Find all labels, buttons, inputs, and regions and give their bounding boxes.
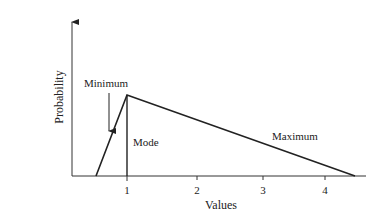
maximum-label: Maximum: [272, 131, 318, 142]
x-tick-label-2: 2: [194, 185, 200, 196]
x-ticks: [127, 176, 325, 181]
y-axis-label: Probability: [53, 65, 65, 129]
x-tick-label-3: 3: [260, 185, 266, 196]
minimum-label: Minimum: [84, 78, 128, 89]
x-tick-label-4: 4: [322, 185, 328, 196]
x-axis-label: Values: [205, 199, 237, 210]
x-tick-label-1: 1: [124, 185, 130, 196]
mode-label: Mode: [133, 137, 159, 148]
